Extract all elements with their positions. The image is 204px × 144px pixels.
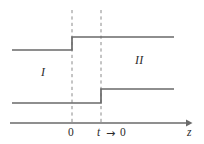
tick-label-zero: 0 bbox=[68, 127, 74, 139]
limit-value-zero: 0 bbox=[120, 127, 126, 139]
lower-step-curve bbox=[12, 89, 174, 103]
z-axis-label: z bbox=[187, 127, 191, 139]
step-function-figure: I II 0 t → 0 z bbox=[0, 0, 204, 144]
region-label-one: I bbox=[41, 66, 45, 78]
tick-label-t: t bbox=[97, 127, 100, 139]
figure-canvas bbox=[0, 0, 204, 144]
limit-arrow-icon: → bbox=[106, 128, 115, 139]
region-label-two: II bbox=[135, 54, 144, 66]
upper-step-curve bbox=[12, 37, 174, 50]
